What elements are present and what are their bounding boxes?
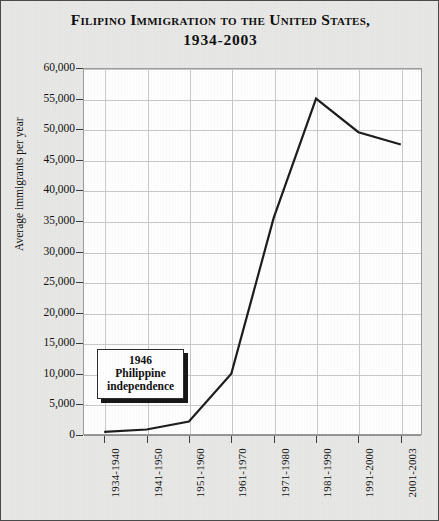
chart-title-line2: 1934-2003 (1, 30, 439, 50)
x-axis-tick-label: 2001-2003 (406, 448, 418, 497)
y-axis-tick-label: 25,000 (9, 276, 75, 287)
y-axis-tick-label: 0 (9, 429, 75, 440)
x-axis-tick (316, 436, 317, 443)
annotation-box: 1946 Philippine independence (97, 349, 184, 399)
y-axis-tick (76, 190, 83, 191)
x-axis-tick-label: 1971-1980 (279, 448, 291, 497)
y-axis-tick (76, 343, 83, 344)
annotation-line-3: independence (107, 380, 174, 393)
y-axis-tick (76, 68, 83, 69)
annotation-line-2: Philippine (107, 367, 174, 380)
y-axis-tick (76, 252, 83, 253)
x-axis-tick (358, 436, 359, 443)
y-axis-tick-label: 20,000 (9, 307, 75, 318)
axis-baseline (84, 435, 421, 436)
x-axis-tick (104, 436, 105, 443)
x-axis-tick-label: 1961-1970 (236, 448, 248, 497)
y-axis-tick (76, 160, 83, 161)
y-axis-tick (76, 374, 83, 375)
x-axis-tick-label: 1934-1940 (109, 448, 121, 497)
y-axis-tick (76, 221, 83, 222)
y-axis-tick (76, 99, 83, 100)
annotation-philippine-independence: 1946 Philippine independence (97, 349, 184, 399)
chart-figure: Filipino Immigration to the United State… (0, 0, 439, 521)
x-axis-tick (274, 436, 275, 443)
y-axis-tick-label: 30,000 (9, 246, 75, 257)
x-axis-tick-label: 1991-2000 (363, 448, 375, 497)
y-axis-tick-label: 50,000 (9, 123, 75, 134)
y-axis-tick-label: 55,000 (9, 93, 75, 104)
x-axis-tick-label: 1981-1990 (321, 448, 333, 497)
x-axis-tick (231, 436, 232, 443)
y-axis-tick (76, 129, 83, 130)
x-axis-tick (189, 436, 190, 443)
y-axis-tick (76, 435, 83, 436)
chart-title-line1: Filipino Immigration to the United State… (71, 11, 371, 28)
y-axis-tick (76, 404, 83, 405)
x-axis-tick (401, 436, 402, 443)
y-axis-tick (76, 313, 83, 314)
y-axis-tick-label: 35,000 (9, 215, 75, 226)
y-axis-tick-label: 10,000 (9, 368, 75, 379)
x-axis-tick-label: 1951-1960 (194, 448, 206, 497)
y-axis-tick-label: 40,000 (9, 184, 75, 195)
y-axis-tick (76, 282, 83, 283)
chart-title: Filipino Immigration to the United State… (1, 10, 439, 50)
y-axis-tick-label: 60,000 (9, 62, 75, 73)
annotation-line-1: 1946 (107, 354, 174, 367)
x-axis-tick (147, 436, 148, 443)
y-axis-tick-label: 15,000 (9, 337, 75, 348)
y-axis-tick-label: 5,000 (9, 398, 75, 409)
x-axis-tick-label: 1941-1950 (152, 448, 164, 497)
y-axis-tick-label: 45,000 (9, 154, 75, 165)
